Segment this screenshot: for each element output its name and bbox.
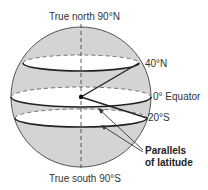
label-true-north: True north 90°N [49,12,120,22]
label-20s: 20°S [148,113,170,123]
label-equator: 0° Equator [153,92,200,102]
label-parallels-line1: Parallels [145,145,193,157]
center-point [79,95,83,99]
label-parallels: Parallels of latitude [145,145,193,169]
label-true-south: True south 90°S [49,174,121,184]
label-40n: 40°N [145,59,167,69]
label-parallels-line2: of latitude [145,157,193,169]
